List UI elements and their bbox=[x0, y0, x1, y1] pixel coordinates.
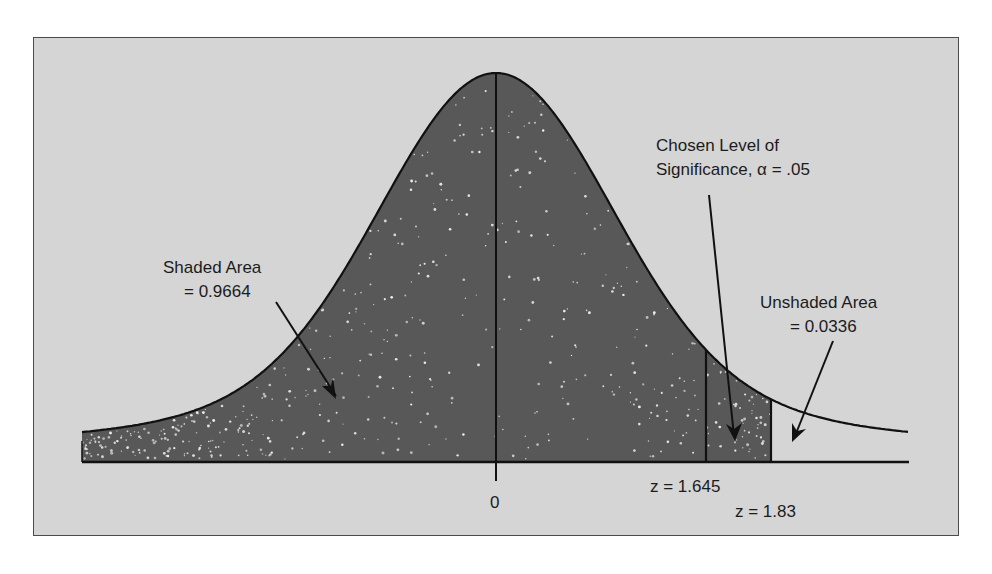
normal-curve-plot bbox=[0, 0, 992, 574]
unshaded-arrow bbox=[795, 341, 833, 436]
shaded-area-label: Shaded Area bbox=[163, 257, 261, 279]
unshaded-area-value: = 0.0336 bbox=[790, 316, 857, 338]
arrow-icon bbox=[792, 341, 833, 442]
alpha-label-line2: Significance, α = .05 bbox=[656, 159, 810, 181]
z-critical-label: z = 1.645 bbox=[650, 476, 720, 498]
unshaded-area-label: Unshaded Area bbox=[760, 292, 877, 314]
alpha-label-line1: Chosen Level of bbox=[656, 135, 779, 157]
shaded-area-value: = 0.9664 bbox=[184, 281, 251, 303]
z-observed-label: z = 1.83 bbox=[735, 501, 796, 523]
x-tick-zero: 0 bbox=[490, 492, 499, 514]
